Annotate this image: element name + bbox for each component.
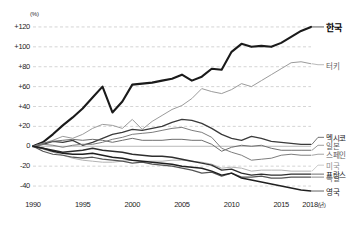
series-label-4: 스페인	[326, 149, 346, 160]
y-axis-tick-label: -40	[4, 181, 30, 190]
leader-line-3	[312, 145, 324, 150]
gridlines-group	[33, 27, 311, 186]
series-line-4	[33, 127, 311, 160]
series-lines-group	[33, 27, 311, 191]
series-label-7: 독일	[326, 172, 339, 183]
series-label-1: 터키	[326, 60, 339, 71]
leader-line-5	[312, 165, 324, 171]
y-axis-tick-label: +80	[4, 62, 30, 71]
y-axis-tick-label: +40	[4, 102, 30, 111]
x-axis-tick-label: 1995	[63, 200, 103, 209]
x-axis-tick-label: 2005	[162, 200, 202, 209]
y-axis-tick-label: -20	[4, 161, 30, 170]
line-chart-plot	[0, 0, 363, 232]
x-axis-unit-suffix: (년)	[318, 202, 326, 208]
y-axis-unit-label: (%)	[30, 11, 39, 17]
x-axis-tick-label: 2000	[112, 200, 152, 209]
y-axis-tick-label: 0	[4, 141, 30, 150]
chart-container: (%) +120+100+80+60+40+200-20-40 19901995…	[0, 0, 363, 232]
label-leader-lines-group	[312, 27, 324, 191]
leader-line-2	[312, 137, 324, 144]
x-axis-tick-label: 1990	[13, 200, 53, 209]
leader-line-1	[312, 64, 324, 65]
series-label-0: 한국	[326, 21, 341, 34]
y-axis-tick-label: +100	[4, 42, 30, 51]
y-axis-tick-label: +60	[4, 82, 30, 91]
leader-line-4	[312, 154, 324, 155]
y-axis-tick-label: +120	[4, 22, 30, 31]
series-label-8: 영국	[326, 186, 339, 197]
series-line-2	[33, 119, 311, 146]
series-line-8	[33, 146, 311, 191]
series-line-1	[33, 62, 311, 147]
x-axis-tick-label: 2018(년)	[294, 200, 334, 209]
y-axis-tick-label: +20	[4, 121, 30, 130]
x-axis-tick-label: 2010	[212, 200, 252, 209]
